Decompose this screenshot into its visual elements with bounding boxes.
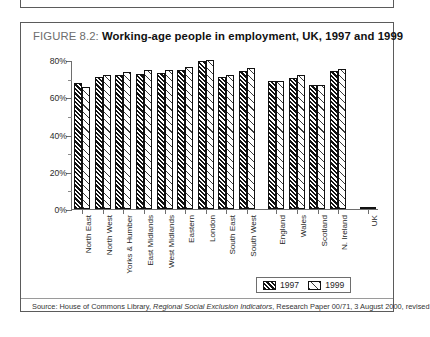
previous-figure-box-edge — [20, 0, 394, 8]
bar-1997-england — [268, 81, 276, 209]
legend-item-1999: 1999 — [308, 280, 344, 290]
bar-1999-london — [206, 60, 214, 209]
y-axis-tick-label: 20% — [25, 168, 67, 178]
source-prefix: Source: House of Commons Library, — [32, 302, 153, 311]
bar-1999-north-west — [103, 75, 111, 209]
bar-group — [93, 61, 114, 209]
bar-1997-n-ireland — [330, 71, 338, 209]
bar-1999-england — [276, 81, 284, 209]
y-axis-tick-label: 0% — [25, 205, 67, 215]
page-title: FIGURE 8.2: Working-age people in employ… — [33, 30, 385, 42]
chart-plot-wrapper: North EastNorth WestYorks & HumberEast M… — [21, 53, 395, 243]
bar-group — [328, 61, 349, 209]
bar-1999-south-west — [247, 68, 255, 209]
x-axis-label: West Midlands — [167, 215, 176, 268]
y-axis-tick-label: 40% — [25, 131, 67, 141]
source-publication: Regional Social Exclusion Indicators — [153, 302, 272, 311]
x-axis-label: Yorks & Humber — [125, 215, 134, 274]
x-axis-label: Wales — [299, 215, 308, 237]
bar-1999-north-east — [82, 87, 90, 209]
legend-label-1997: 1997 — [280, 280, 299, 290]
x-axis-label: North East — [84, 215, 93, 253]
x-axis-label: Scotland — [320, 215, 329, 247]
x-axis-label: South East — [228, 215, 237, 255]
bar-group — [357, 61, 378, 209]
bar-group — [154, 61, 175, 209]
bar-1997-north-east — [74, 83, 82, 209]
source-divider — [21, 298, 393, 299]
bar-1999-south-east — [226, 75, 234, 209]
bar-series-container — [72, 61, 378, 209]
bar-1997-uk — [360, 207, 368, 209]
x-axis-label: England — [278, 215, 287, 245]
y-axis-tick-label: 80% — [25, 56, 67, 66]
bar-1997-wales — [289, 78, 297, 209]
bar-group — [175, 61, 196, 209]
bar-1999-east-midlands — [144, 70, 152, 209]
legend-swatch-1999-icon — [308, 281, 321, 290]
x-axis-label: London — [208, 215, 217, 242]
bar-1999-west-midlands — [165, 70, 173, 209]
x-axis-label: UK — [370, 215, 379, 226]
figure-container: FIGURE 8.2: Working-age people in employ… — [20, 22, 394, 312]
bar-1997-south-east — [218, 77, 226, 209]
source-note: Source: House of Commons Library, Region… — [32, 302, 385, 311]
bar-1997-east-midlands — [136, 74, 144, 209]
group-spacer — [257, 61, 266, 209]
bar-group — [134, 61, 155, 209]
bar-group — [237, 61, 258, 209]
bar-1997-south-west — [239, 71, 247, 209]
y-axis-tick-label: 60% — [25, 93, 67, 103]
bar-1997-yorks-humber — [115, 75, 123, 209]
bar-group — [266, 61, 287, 209]
group-spacer — [348, 61, 357, 209]
bar-1999-scotland — [317, 85, 325, 209]
bar-1999-eastern — [185, 67, 193, 209]
legend-swatch-1997-icon — [263, 281, 276, 290]
bar-1999-n-ireland — [338, 69, 346, 209]
bar-1999-yorks-humber — [123, 72, 131, 209]
chart-plot-area — [71, 61, 378, 210]
bar-1997-north-west — [95, 77, 103, 209]
x-axis-label: South West — [249, 215, 258, 257]
bar-1999-wales — [297, 75, 305, 209]
source-suffix: , Research Paper 00/71, 3 August 2000, r… — [272, 302, 429, 311]
bar-group — [195, 61, 216, 209]
figure-title-text: Working-age people in employment, UK, 19… — [102, 30, 403, 42]
x-axis-label: N. Ireland — [340, 215, 349, 250]
x-axis-label: Eastern — [187, 215, 196, 243]
bar-1997-west-midlands — [157, 73, 165, 209]
figure-number: FIGURE 8.2: — [33, 30, 99, 42]
bar-group — [216, 61, 237, 209]
x-axis-label: East Midlands — [146, 215, 155, 266]
x-axis-labels: North EastNorth WestYorks & HumberEast M… — [71, 213, 377, 273]
bar-group — [287, 61, 308, 209]
bar-group — [72, 61, 93, 209]
legend-label-1999: 1999 — [325, 280, 344, 290]
bar-group — [113, 61, 134, 209]
bar-1999-uk — [368, 207, 376, 209]
legend-item-1997: 1997 — [263, 280, 299, 290]
bar-1997-london — [198, 61, 206, 209]
bar-1997-scotland — [309, 85, 317, 209]
bar-group — [307, 61, 328, 209]
bar-1997-eastern — [177, 70, 185, 209]
x-axis-label: North West — [105, 215, 114, 255]
chart-legend: 1997 1999 — [256, 277, 351, 293]
